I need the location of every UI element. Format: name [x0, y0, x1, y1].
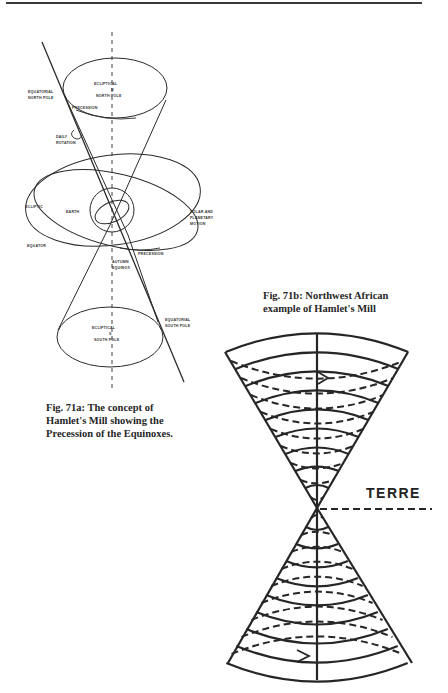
figure-71b-diagram: TERRE	[0, 0, 448, 693]
figure-71a-caption: Fig. 71a: The concept of Hamlet's Mill s…	[46, 401, 236, 440]
caption-line: Fig. 71a: The concept of	[46, 401, 236, 414]
label-terre: TERRE	[366, 485, 421, 501]
caption-line: Fig. 71b: Northwest African	[263, 289, 443, 302]
caption-line: example of Hamlet's Mill	[263, 302, 443, 315]
caption-line: Precession of the Equinoxes.	[46, 427, 236, 440]
bottom-arrow-icon	[297, 650, 309, 662]
caption-line: Hamlet's Mill showing the	[46, 414, 236, 427]
figure-71b-caption: Fig. 71b: Northwest African example of H…	[263, 289, 443, 315]
